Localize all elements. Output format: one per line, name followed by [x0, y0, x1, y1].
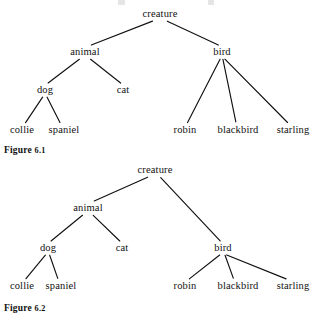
- caption-prefix: Figure: [4, 145, 35, 155]
- tree-node-animal: animal: [73, 203, 102, 214]
- tree-node-creature: creature: [142, 9, 177, 20]
- caption-prefix: Figure: [4, 303, 35, 313]
- figure-6-1-nodes: creatureanimalbirddogcatcolliespanielrob…: [0, 0, 324, 158]
- tree-node-collie: collie: [10, 125, 34, 136]
- tree-node-animal: animal: [70, 47, 99, 58]
- tree-node-starling: starling: [277, 125, 310, 136]
- figure-6-2-nodes: creatureanimaldogcatbirdcolliespanielrob…: [0, 158, 324, 322]
- figure-6-2-caption: Figure 6.2: [4, 304, 46, 314]
- caption-number: 6.2: [35, 304, 46, 313]
- tree-node-dog: dog: [37, 85, 53, 96]
- tree-node-robin: robin: [174, 281, 197, 292]
- tree-node-spaniel: spaniel: [46, 281, 77, 292]
- tree-node-blackbird: blackbird: [217, 125, 258, 136]
- figure-6-1-caption: Figure 6.1: [4, 146, 46, 156]
- tree-node-collie: collie: [10, 281, 34, 292]
- figure-6-2: creatureanimaldogcatbirdcolliespanielrob…: [0, 158, 324, 322]
- tree-node-robin: robin: [174, 125, 197, 136]
- tree-node-bird: bird: [214, 243, 232, 254]
- tree-node-cat: cat: [116, 243, 129, 254]
- figure-6-1: creatureanimalbirddogcatcolliespanielrob…: [0, 0, 324, 158]
- tree-node-starling: starling: [277, 281, 310, 292]
- caption-number: 6.1: [35, 146, 46, 155]
- tree-node-spaniel: spaniel: [49, 125, 80, 136]
- tree-node-blackbird: blackbird: [217, 281, 258, 292]
- tree-node-cat: cat: [117, 85, 130, 96]
- tree-node-dog: dog: [40, 243, 56, 254]
- tree-node-bird: bird: [213, 47, 231, 58]
- tree-node-creature: creature: [137, 165, 172, 176]
